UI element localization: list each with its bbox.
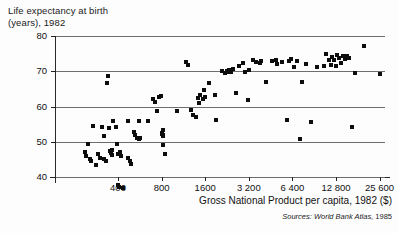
data-point bbox=[153, 100, 157, 104]
data-point bbox=[287, 59, 291, 63]
data-point bbox=[378, 72, 382, 76]
plot-area bbox=[55, 36, 385, 177]
data-point bbox=[304, 62, 308, 66]
source-prefix: Sources: World Bank Atlas, bbox=[282, 212, 373, 221]
data-point bbox=[298, 137, 302, 141]
chart-page: Life expectancy at birth (years), 1982 G… bbox=[0, 0, 398, 233]
data-point bbox=[329, 63, 333, 67]
data-point bbox=[105, 81, 109, 85]
data-point bbox=[300, 80, 304, 84]
data-point bbox=[146, 119, 150, 123]
data-point bbox=[347, 56, 351, 60]
x-tick-label: 800 bbox=[154, 182, 170, 193]
x-tick-label: 6 400 bbox=[281, 182, 305, 193]
data-point bbox=[280, 60, 284, 64]
x-tick-mark-25600 bbox=[380, 177, 381, 181]
x-tick-label: 25 600 bbox=[365, 182, 394, 193]
data-point bbox=[295, 59, 299, 63]
data-point bbox=[264, 80, 268, 84]
data-point bbox=[339, 61, 343, 65]
data-point bbox=[89, 159, 93, 163]
data-point bbox=[350, 125, 354, 129]
data-point bbox=[155, 109, 159, 113]
gridline-y-80 bbox=[55, 36, 385, 37]
data-point bbox=[274, 58, 278, 62]
data-point bbox=[126, 119, 130, 123]
data-point bbox=[246, 98, 250, 102]
data-point bbox=[86, 142, 90, 146]
x-tick-label: 400 bbox=[110, 182, 126, 193]
data-point bbox=[100, 125, 104, 129]
data-point bbox=[163, 152, 167, 156]
data-point bbox=[275, 62, 279, 66]
data-point bbox=[119, 154, 123, 158]
x-axis-title: Gross National Product per capita, 1982 … bbox=[0, 195, 392, 206]
data-point bbox=[175, 109, 179, 113]
data-point bbox=[353, 71, 357, 75]
data-point bbox=[362, 44, 366, 48]
data-point bbox=[197, 101, 201, 105]
data-point bbox=[194, 115, 198, 119]
y-tick-label: 60 bbox=[21, 101, 47, 112]
data-point bbox=[241, 61, 245, 65]
data-point bbox=[315, 65, 319, 69]
data-point bbox=[324, 52, 328, 56]
y-tick-mark-70 bbox=[51, 71, 56, 72]
source-year: 1985 bbox=[375, 212, 392, 221]
y-tick-label: 50 bbox=[21, 136, 47, 147]
data-point bbox=[114, 125, 118, 129]
data-point bbox=[285, 118, 289, 122]
data-point bbox=[161, 133, 165, 137]
y-tick-label: 80 bbox=[21, 30, 47, 41]
data-point bbox=[104, 159, 108, 163]
data-point bbox=[106, 74, 110, 78]
data-point bbox=[214, 118, 218, 122]
data-point bbox=[91, 124, 95, 128]
x-tick-mark-400 bbox=[118, 177, 119, 181]
x-tick-mark-1600 bbox=[205, 177, 206, 181]
data-point bbox=[110, 153, 114, 157]
x-tick-mark-6400 bbox=[292, 177, 293, 181]
data-point bbox=[94, 163, 98, 167]
x-tick-mark-3200 bbox=[249, 177, 250, 181]
data-point bbox=[84, 154, 88, 158]
data-point bbox=[189, 108, 193, 112]
data-point bbox=[111, 119, 115, 123]
data-point bbox=[332, 58, 336, 62]
x-tick-label: 12 800 bbox=[321, 182, 350, 193]
x-tick-mark-12800 bbox=[336, 177, 337, 181]
x-tick-label: 1600 bbox=[195, 182, 216, 193]
data-point bbox=[129, 162, 133, 166]
y-tick-mark-50 bbox=[51, 142, 56, 143]
data-point bbox=[234, 91, 238, 95]
data-point bbox=[247, 68, 251, 72]
y-tick-label: 40 bbox=[21, 171, 47, 182]
data-point bbox=[137, 119, 141, 123]
data-point bbox=[292, 65, 296, 69]
y-axis-title: Life expectancy at birth (years), 1982 bbox=[8, 5, 108, 28]
data-point bbox=[258, 61, 262, 65]
data-point bbox=[202, 88, 206, 92]
data-point bbox=[334, 64, 338, 68]
gridline-y-50 bbox=[55, 142, 385, 143]
data-point bbox=[115, 142, 119, 146]
y-tick-mark-40 bbox=[51, 177, 56, 178]
data-point bbox=[203, 95, 207, 99]
data-point bbox=[270, 59, 274, 63]
data-point bbox=[161, 128, 165, 132]
y-tick-mark-80 bbox=[51, 36, 56, 37]
data-point bbox=[243, 70, 247, 74]
data-point bbox=[138, 136, 142, 140]
x-tick-label: 3 200 bbox=[237, 182, 261, 193]
x-tick-mark-800 bbox=[162, 177, 163, 181]
data-point bbox=[309, 120, 313, 124]
data-point bbox=[102, 134, 106, 138]
y-tick-mark-60 bbox=[51, 107, 56, 108]
data-point bbox=[107, 126, 111, 130]
y-tick-label: 70 bbox=[21, 65, 47, 76]
gridline-y-60 bbox=[55, 107, 385, 108]
data-point bbox=[161, 143, 165, 147]
data-point bbox=[207, 81, 211, 85]
data-point bbox=[213, 93, 217, 97]
data-point bbox=[186, 63, 190, 67]
